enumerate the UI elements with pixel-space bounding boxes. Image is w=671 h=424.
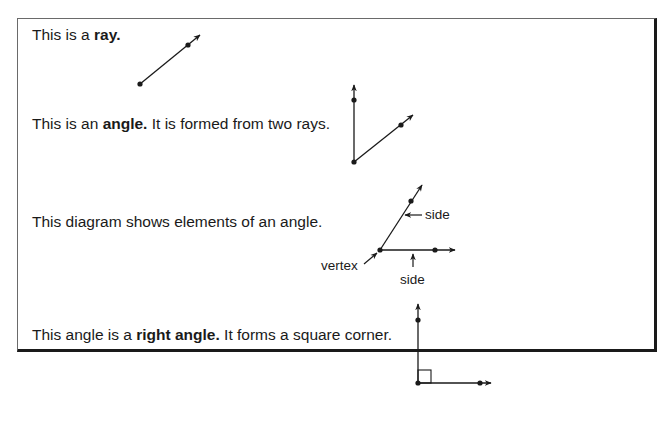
ray-endpoint-dot xyxy=(137,81,142,86)
side-point-dot xyxy=(432,247,437,252)
right-angle-point-dot xyxy=(477,380,482,385)
right-angle-figure xyxy=(415,304,491,386)
angle-elements-figure: side side vertex xyxy=(321,185,455,287)
side-label-upper: side xyxy=(425,207,450,222)
angle-vertex-dot xyxy=(351,159,356,164)
angle-point-dot xyxy=(351,97,356,102)
side-point-dot xyxy=(408,198,413,203)
right-angle-vertex-dot xyxy=(415,380,420,385)
side-label-lower: side xyxy=(400,272,425,287)
angle-point-dot xyxy=(398,122,403,127)
vertex-dot xyxy=(377,247,382,252)
vertex-pointer-arrow xyxy=(364,253,377,264)
ray-figure xyxy=(137,35,200,87)
vertex-label: vertex xyxy=(321,258,358,273)
ray-point-dot xyxy=(185,42,190,47)
right-angle-marker xyxy=(418,370,431,383)
figures-canvas: side side vertex xyxy=(0,0,671,424)
right-angle-point-dot xyxy=(415,317,420,322)
angle-figure xyxy=(351,85,413,165)
